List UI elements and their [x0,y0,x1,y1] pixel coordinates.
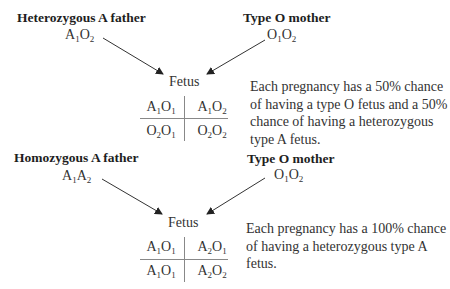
mother-arrow-2 [207,178,265,214]
punnett-1-cell-r1c1: O2O2 [190,123,234,139]
father-arrow-1 [103,38,163,74]
description-1: Each pregnancy has a 50% chance of havin… [250,78,450,148]
punnett-1-cell-r0c1: A1O2 [190,99,234,115]
father-label-1: Heterozygous A father [17,10,146,26]
father-genotype-1: A1O2 [65,27,94,43]
punnett-1-cell-r0c0: A1O1 [139,99,183,115]
punnett-2-cell-r0c0: A1O1 [139,239,183,255]
punnett-2-cell-r1c0: A1O1 [139,263,183,279]
mother-genotype-2: O1O2 [274,167,303,183]
father-arrow-2 [102,179,162,214]
father-label-2: Homozygous A father [14,150,139,166]
fetus-label-2: Fetus [168,215,198,231]
punnett-1-cell-r1c0: O2O1 [139,123,183,139]
mother-label-2: Type O mother [247,151,335,167]
description-2: Each pregnancy has a 100% chance of havi… [246,220,450,273]
punnett-2-cell-r1c1: A2O2 [190,263,234,279]
mother-label-1: Type O mother [243,10,331,26]
mother-arrow-1 [207,40,265,74]
mother-genotype-1: O1O2 [267,27,296,43]
father-genotype-2: A1A2 [62,168,91,184]
punnett-2-cell-r0c1: A2O1 [190,239,234,255]
fetus-label-1: Fetus [169,74,199,90]
